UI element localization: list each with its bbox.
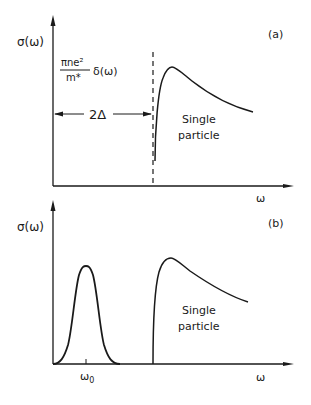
panel-a: σ(ω) (a) ω πne² m* δ(ω) 2Δ Single partic… [17,15,294,205]
panel-b-y-arrow-icon [51,200,56,211]
panel-b-region-label-line2: particle [178,320,220,333]
panel-a-delta-denominator: m* [66,72,81,83]
panel-a-delta-term: δ(ω) [93,65,118,78]
panel-a-delta-numerator: πne² [61,57,84,68]
panel-b-omega0-subscript: 0 [89,376,94,385]
panel-b-tag: (b) [268,217,284,230]
panel-a-gap-arrowhead-left-icon [54,112,63,117]
panel-a-tag: (a) [268,28,283,41]
panel-a-region-label-line2: particle [178,129,220,142]
panel-a-y-arrow-icon [51,15,56,26]
panel-b-x-arrow-icon [283,362,294,366]
panel-a-region-label-line1: Single [182,113,216,126]
panel-a-x-arrow-icon [283,184,294,188]
figure-canvas: σ(ω) (a) ω πne² m* δ(ω) 2Δ Single partic… [0,0,311,405]
panel-b-gaussian-peak-curve [53,266,120,364]
panel-b-x-label: ω [256,371,265,384]
panel-b-region-label-line1: Single [182,304,216,317]
panel-a-gap-label: 2Δ [89,107,106,122]
panel-a-x-label: ω [256,192,265,205]
panel-a-y-label: σ(ω) [17,35,44,49]
panel-a-gap-arrowhead-right-icon [143,112,152,117]
panel-b: σ(ω) (b) ω ω0 Single particle [17,200,294,385]
panel-b-omega0-label: ω0 [80,370,94,385]
panel-b-y-label: σ(ω) [17,220,44,234]
